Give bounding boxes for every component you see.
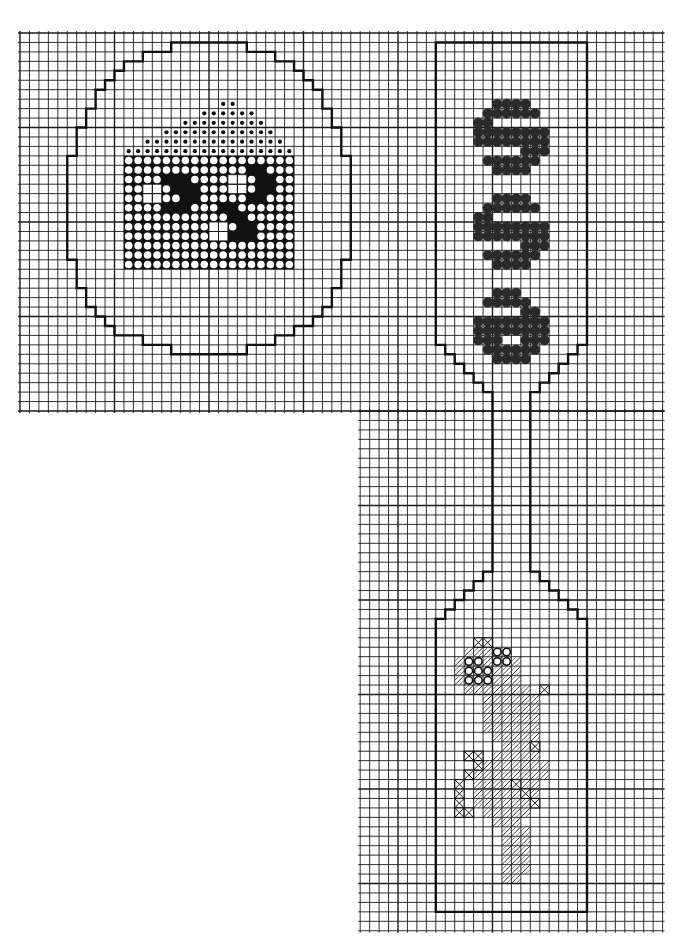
filled-circle-stitch [520, 136, 530, 146]
flower-circle-stitch [465, 677, 473, 685]
hatch-stitch [511, 751, 520, 760]
dot-stitch [193, 130, 197, 134]
open-circle-stitch [210, 166, 218, 174]
open-circle-stitch [210, 157, 218, 165]
blank-stitch [218, 222, 227, 231]
hatch-stitch [502, 789, 511, 798]
filled-circle-stitch [511, 231, 521, 241]
hatch-stitch [521, 770, 530, 779]
hatch-stitch [530, 780, 539, 789]
open-circle-stitch [163, 251, 171, 259]
filled-circle-stitch [539, 335, 549, 345]
filled-circle-stitch [520, 354, 530, 364]
open-circle-stitch [134, 166, 142, 174]
filled-circle-stitch [530, 155, 540, 165]
open-circle-stitch [125, 166, 133, 174]
open-circle-stitch [134, 251, 142, 259]
hatch-stitch [493, 789, 502, 798]
hatch-stitch [483, 647, 492, 656]
hatch-stitch [502, 695, 511, 704]
dot-stitch [164, 130, 168, 134]
hatch-stitch [530, 704, 539, 713]
open-circle-stitch [267, 213, 275, 221]
open-circle-stitch [210, 242, 218, 250]
filled-circle-stitch [492, 259, 502, 269]
open-circle-stitch [200, 213, 208, 221]
dot-stitch [240, 121, 244, 125]
hatch-stitch [521, 742, 530, 751]
open-circle-stitch [182, 261, 190, 269]
hatch-stitch [483, 685, 492, 694]
hatch-stitch [502, 808, 511, 817]
dot-stitch [278, 140, 282, 144]
open-circle-stitch [163, 242, 171, 250]
open-circle-stitch [163, 223, 171, 231]
filled-circle-stitch [511, 354, 521, 364]
hatch-stitch [511, 770, 520, 779]
filled-circle-stitch [492, 203, 502, 213]
hatch-stitch [511, 685, 520, 694]
dot-stitch [221, 111, 225, 115]
open-circle-stitch [200, 204, 208, 212]
open-circle-stitch [248, 185, 256, 193]
open-circle-stitch [163, 232, 171, 240]
hatch-stitch [511, 808, 520, 817]
dot-stitch [221, 140, 225, 144]
filled-circle-stitch [511, 316, 521, 326]
filled-circle-stitch [501, 354, 511, 364]
open-circle-stitch [200, 242, 208, 250]
open-circle-stitch [286, 157, 294, 165]
hatch-stitch [493, 798, 502, 807]
open-circle-stitch [267, 261, 275, 269]
filled-circle-stitch [520, 335, 530, 345]
filled-circle-stitch [539, 231, 549, 241]
filled-circle-stitch [511, 297, 521, 307]
open-circle-stitch [229, 157, 237, 165]
filled-circle-stitch [511, 127, 521, 137]
hatch-stitch [521, 798, 530, 807]
dot-stitch [202, 130, 206, 134]
open-circle-stitch [191, 223, 199, 231]
hatch-stitch [493, 732, 502, 741]
dot-stitch [240, 111, 244, 115]
dot-stitch [278, 149, 282, 153]
open-circle-stitch [267, 242, 275, 250]
open-circle-stitch [144, 261, 152, 269]
open-circle-stitch [286, 176, 294, 184]
open-circle-stitch [257, 251, 265, 259]
dot-stitch [202, 149, 206, 153]
open-circle-stitch [172, 261, 180, 269]
open-circle-stitch [257, 242, 265, 250]
filled-circle-stitch [530, 146, 540, 156]
open-circle-stitch [248, 204, 256, 212]
open-circle-stitch [200, 251, 208, 259]
open-circle-stitch [182, 213, 190, 221]
open-circle-stitch [286, 185, 294, 193]
filled-circle-stitch [473, 231, 483, 241]
hatch-stitch [502, 817, 511, 826]
blank-stitch [218, 231, 227, 240]
dot-stitch [240, 149, 244, 153]
open-circle-stitch [200, 232, 208, 240]
hatch-stitch [521, 827, 530, 836]
filled-circle-stitch [530, 231, 540, 241]
filled-circle-stitch [483, 136, 493, 146]
hatch-stitch [511, 827, 520, 836]
flower-circle-stitch [475, 658, 483, 666]
hatch-stitch [521, 836, 530, 845]
dot-stitch [212, 140, 216, 144]
open-circle-stitch [125, 157, 133, 165]
filled-circle-stitch [539, 325, 549, 335]
open-circle-stitch [267, 223, 275, 231]
hatch-stitch [511, 855, 520, 864]
open-circle-stitch [134, 261, 142, 269]
filled-circle-stitch [501, 203, 511, 213]
open-circle-stitch [210, 213, 218, 221]
filled-circle-stitch [539, 316, 549, 326]
flower-circle-stitch [484, 667, 492, 675]
stitch-grid [18, 31, 665, 933]
filled-circle-stitch [520, 240, 530, 250]
dot-stitch [240, 130, 244, 134]
dot-stitch [249, 140, 253, 144]
filled-circle-stitch [511, 155, 521, 165]
